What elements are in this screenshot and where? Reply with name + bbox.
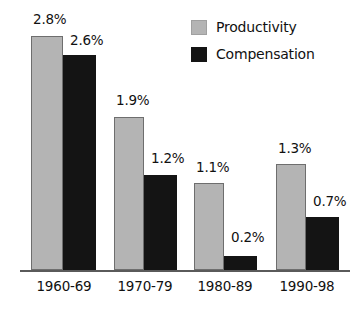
axis-label-1980-89: 1980-89 (184, 278, 266, 294)
bar-compensation-1990-98 (306, 217, 339, 270)
x-axis-line (20, 270, 350, 272)
bar-compensation-1980-89 (224, 256, 257, 270)
productivity-swatch-icon (191, 20, 207, 35)
axis-label-1990-98: 1990-98 (266, 278, 348, 294)
axis-label-1960-69: 1960-69 (23, 278, 105, 294)
bar-chart: 2.8% 2.6% 1960-69 1.9% 1.2% 1970-79 1.1%… (0, 0, 364, 314)
bar-compensation-1960-69 (63, 55, 96, 270)
legend-label-productivity: Productivity (216, 19, 297, 35)
axis-label-1970-79: 1970-79 (104, 278, 186, 294)
bar-productivity-1990-98 (276, 164, 306, 270)
bar-compensation-1970-79 (144, 175, 177, 270)
bar-productivity-1980-89 (194, 183, 224, 270)
bar-label-compensation-1990-98: 0.7% (313, 193, 347, 209)
bar-label-productivity-1990-98: 1.3% (278, 140, 312, 156)
bar-productivity-1960-69 (31, 36, 63, 270)
legend-item-productivity: Productivity (191, 16, 315, 38)
bar-label-compensation-1980-89: 0.2% (231, 229, 265, 245)
compensation-swatch-icon (191, 47, 207, 62)
bar-label-compensation-1970-79: 1.2% (151, 150, 185, 166)
bar-label-compensation-1960-69: 2.6% (70, 32, 104, 48)
legend: Productivity Compensation (191, 16, 315, 70)
bar-label-productivity-1970-79: 1.9% (116, 92, 150, 108)
legend-item-compensation: Compensation (191, 43, 315, 65)
bar-label-productivity-1960-69: 2.8% (33, 11, 67, 27)
bar-label-productivity-1980-89: 1.1% (196, 159, 230, 175)
bar-productivity-1970-79 (114, 117, 144, 270)
legend-label-compensation: Compensation (216, 46, 315, 62)
